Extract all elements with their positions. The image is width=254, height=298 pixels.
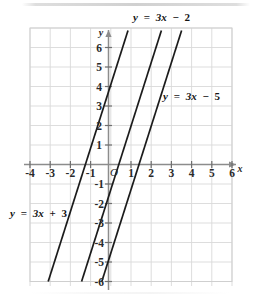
y-axis-label: y [98, 27, 104, 38]
grid-lines [30, 28, 232, 286]
eq1-op: + [49, 207, 55, 219]
graph-figure: -4 -3 -2 -1 1 2 3 4 5 6 6 5 4 3 2 1 -1 -… [0, 0, 254, 298]
eq2-coef: 3x [155, 11, 168, 23]
equation-label-y-eq-3x-minus-2: y = 3x − 2 [131, 11, 190, 23]
axes [24, 30, 236, 290]
origin-label: O [110, 166, 118, 178]
y-tick-label-2: 2 [96, 120, 102, 132]
eq2-const: 2 [184, 11, 190, 23]
x-tick-label-6: 6 [229, 167, 235, 179]
x-tick-label-neg4: -4 [25, 167, 35, 179]
equation-label-y-eq-3x-plus-3: y = 3x + 3 [8, 207, 67, 219]
x-tick-label-5: 5 [209, 167, 215, 179]
y-tick-label-3: 3 [96, 100, 102, 112]
svg-text:y = 3x: y = 3x + 3 [8, 207, 67, 219]
line-y-eq-3x-minus-5 [102, 31, 182, 282]
y-tick-label-4: 4 [96, 81, 102, 93]
y-tick-label-neg3: -3 [94, 217, 104, 229]
eq3-op: − [202, 90, 208, 102]
bottom-edge-artifact [30, 292, 230, 294]
x-tick-label-3: 3 [169, 167, 175, 179]
y-tick-label-6: 6 [96, 42, 102, 54]
eq3-coef: 3x [185, 90, 198, 102]
y-tick-label-neg1: -1 [94, 178, 104, 190]
eq2-op: − [172, 11, 178, 23]
y-tick-label-neg6: -6 [94, 276, 104, 288]
eq1-const: 3 [61, 207, 67, 219]
x-axis-label: x [237, 163, 243, 174]
coordinate-plane-svg: -4 -3 -2 -1 1 2 3 4 5 6 6 5 4 3 2 1 -1 -… [0, 0, 254, 298]
top-edge-artifact [22, 3, 250, 6]
eq1-coef: 3x [32, 207, 45, 219]
x-axis-tick-labels: -4 -3 -2 -1 1 2 3 4 5 6 [25, 167, 235, 179]
x-tick-label-neg3: -3 [45, 167, 55, 179]
eq3-const: 5 [214, 90, 220, 102]
y-tick-label-5: 5 [96, 61, 102, 73]
y-tick-label-neg5: -5 [94, 256, 104, 268]
eq1-equals: = [21, 207, 27, 219]
x-tick-label-neg2: -2 [66, 167, 76, 179]
eq1-lhs: y [8, 207, 15, 219]
svg-text:y = 3x: y = 3x − 2 [131, 11, 190, 23]
line-y-eq-3x-plus-3 [48, 31, 128, 282]
eq3-equals: = [174, 90, 180, 102]
y-tick-label-neg4: -4 [94, 237, 104, 249]
y-tick-label-neg2: -2 [94, 198, 104, 210]
x-tick-label-1: 1 [128, 167, 134, 179]
x-tick-label-2: 2 [148, 167, 154, 179]
x-tick-label-4: 4 [189, 167, 195, 179]
y-tick-label-1: 1 [96, 139, 102, 151]
eq2-lhs: y [131, 11, 138, 23]
eq3-lhs: y [161, 90, 168, 102]
function-lines [48, 31, 181, 282]
eq2-equals: = [144, 11, 150, 23]
